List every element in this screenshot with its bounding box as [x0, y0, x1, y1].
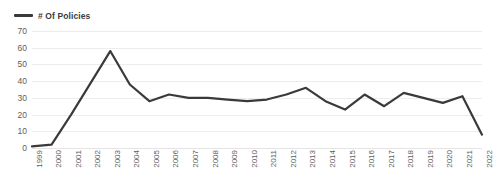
y-axis-tick-label: 60 — [18, 43, 27, 52]
y-axis-tick-label: 10 — [18, 127, 27, 136]
chart-legend: # Of Policies — [14, 9, 90, 22]
x-axis-tick-label: 2020 — [446, 150, 454, 168]
x-axis-tick-label: 2000 — [55, 150, 63, 168]
plot-area — [32, 31, 482, 148]
x-axis-tick-label: 2017 — [388, 150, 396, 168]
x-axis-tick-label: 2010 — [251, 150, 259, 168]
x-axis-tick-label: 2019 — [427, 150, 435, 168]
x-axis: 1999200020012002200320042005200620072008… — [32, 150, 482, 186]
x-axis-tick-label: 2013 — [309, 150, 317, 168]
x-axis-tick-label: 2001 — [75, 150, 83, 168]
y-axis-tick-label: 30 — [18, 94, 27, 103]
y-axis-tick-label: 50 — [18, 60, 27, 69]
x-axis-tick-label: 2002 — [94, 150, 102, 168]
x-axis-tick-label: 2006 — [172, 150, 180, 168]
x-axis-tick-label: 2004 — [133, 150, 141, 168]
x-axis-tick-label: 2018 — [407, 150, 415, 168]
x-axis-tick-label: 2008 — [212, 150, 220, 168]
x-axis-tick-label: 2007 — [192, 150, 200, 168]
x-axis-tick-label: 2003 — [114, 150, 122, 168]
x-axis-tick-label: 2022 — [486, 150, 494, 168]
legend-item-label: # Of Policies — [38, 11, 90, 21]
x-axis-tick-label: 2005 — [153, 150, 161, 168]
y-axis-tick-label: 0 — [22, 144, 27, 153]
series-line-number-of-policies — [32, 51, 482, 146]
y-axis: 010203040506070 — [0, 31, 27, 148]
x-axis-tick-label: 2021 — [466, 150, 474, 168]
y-axis-tick-label: 70 — [18, 27, 27, 36]
y-axis-tick-label: 40 — [18, 77, 27, 86]
x-axis-tick-label: 1999 — [36, 150, 44, 168]
x-axis-tick-label: 2016 — [368, 150, 376, 168]
x-axis-tick-label: 2012 — [290, 150, 298, 168]
y-axis-tick-label: 20 — [18, 110, 27, 119]
x-axis-tick-label: 2014 — [329, 150, 337, 168]
series-line-layer — [32, 31, 482, 148]
x-axis-tick-label: 2011 — [270, 150, 278, 167]
legend-line-swatch-icon — [14, 14, 33, 17]
x-axis-tick-label: 2009 — [231, 150, 239, 168]
x-axis-tick-label: 2015 — [349, 150, 357, 168]
